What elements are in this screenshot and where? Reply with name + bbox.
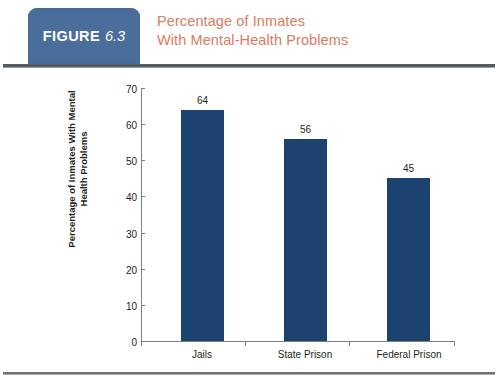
bar-state-prison[interactable]: 56 [284, 139, 327, 341]
y-tick-mark [141, 196, 145, 197]
y-tick-mark [141, 160, 145, 161]
bar-value-state-prison: 56 [300, 124, 311, 135]
y-tick-0: 0 [131, 332, 141, 350]
x-tick-mark [454, 341, 455, 346]
bar-federal-prison[interactable]: 45 [387, 178, 430, 341]
bar-jails[interactable]: 64 [181, 110, 224, 341]
y-tick-label-30: 30 [126, 229, 137, 240]
y-tick-mark [141, 88, 145, 89]
x-label-federal-prison: Federal Prison [376, 349, 441, 360]
y-axis-title: Percentage of Inmates With Mental Health… [66, 44, 90, 294]
x-label-state-prison: State Prison [278, 349, 332, 360]
figure-title-line-1: Percentage of Inmates [157, 12, 348, 31]
y-axis-title-line-2: Health Problems [78, 132, 89, 207]
x-label-jails: Jails [192, 349, 212, 360]
y-tick-10: 10 [126, 296, 141, 314]
y-tick-30: 30 [126, 224, 141, 242]
y-tick-label-70: 70 [126, 84, 137, 95]
bar-chart: Percentage of Inmates With Mental Health… [0, 67, 498, 363]
bar-value-jails: 64 [197, 95, 208, 106]
y-tick-mark [141, 269, 145, 270]
y-tick-20: 20 [126, 260, 141, 278]
y-tick-label-40: 40 [126, 192, 137, 203]
x-tick-mark [349, 341, 350, 346]
figure-title-line-2: With Mental-Health Problems [157, 31, 348, 50]
bar-value-federal-prison: 45 [403, 163, 414, 174]
y-tick-mark [141, 305, 145, 306]
figure-title: Percentage of Inmates With Mental-Health… [157, 12, 348, 50]
figure-number-label: 6.3 [105, 28, 125, 44]
y-tick-60: 60 [126, 115, 141, 133]
y-tick-mark [141, 124, 145, 125]
y-axis-title-line-1: Percentage of Inmates With Mental [66, 90, 77, 247]
y-tick-50: 50 [126, 151, 141, 169]
y-tick-40: 40 [126, 187, 141, 205]
bottom-divider-rule [3, 372, 495, 375]
y-tick-label-60: 60 [126, 120, 137, 131]
x-axis-line [141, 341, 455, 342]
x-tick-mark [141, 341, 142, 346]
y-tick-label-10: 10 [126, 301, 137, 312]
y-tick-label-50: 50 [126, 156, 137, 167]
figure-word-label: FIGURE [43, 28, 100, 44]
y-tick-mark [141, 233, 145, 234]
plot-area: 70 60 50 40 30 20 10 0 [141, 88, 455, 341]
x-tick-mark [245, 341, 246, 346]
y-tick-label-20: 20 [126, 265, 137, 276]
y-tick-label-0: 0 [131, 337, 137, 348]
y-tick-70: 70 [126, 79, 141, 97]
